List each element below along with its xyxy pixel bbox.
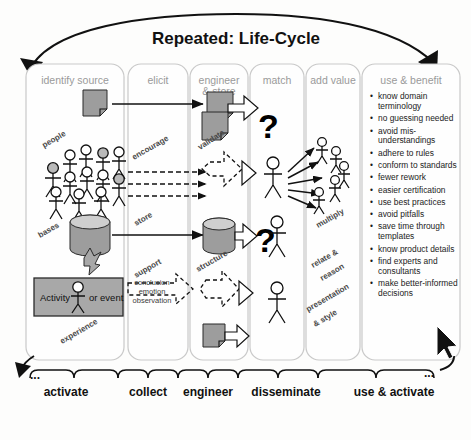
database-cylinder-engineered	[203, 218, 235, 254]
benefit-item: know domain terminology	[370, 92, 458, 112]
engineered-document-bottom	[203, 324, 225, 347]
benefit-item: avoid pitfalls	[370, 210, 458, 220]
bottom-ellipsis-left: ...	[30, 368, 40, 382]
column-header-elicit: elicit	[147, 74, 168, 86]
dashed-text-conclusion: conclusion	[134, 278, 169, 287]
benefits-list: know domain terminologyno guessing neede…	[370, 92, 458, 301]
benefit-item: make better-informed decisions	[370, 279, 458, 299]
bottom-label-activate: activate	[44, 385, 89, 399]
benefit-item: fewer rework	[370, 173, 458, 183]
diagram-canvas: Repeated: Life-Cycle identify source eli…	[0, 0, 471, 440]
label-or-event: or event	[89, 292, 124, 303]
bottom-label-use-activate: use & activate	[354, 385, 435, 399]
benefit-item: use best practices	[370, 198, 458, 208]
source-document-icon	[83, 90, 107, 116]
bottom-ellipsis-right: ...	[424, 366, 434, 380]
benefit-item: no guessing needed	[370, 114, 458, 124]
column-header-use-benefit: use & benefit	[380, 74, 441, 86]
dashed-text-emotion: emotion	[139, 287, 166, 296]
bottom-label-engineer: engineer	[183, 385, 233, 399]
label-activity: Activity	[40, 292, 70, 303]
bottom-brace-group	[30, 370, 434, 378]
benefit-item: adhere to rules	[370, 149, 458, 159]
benefit-item: avoid mis-understandings	[370, 127, 458, 147]
benefit-item: save time through templates	[370, 222, 458, 242]
benefit-item: easier certification	[370, 186, 458, 196]
bottom-label-disseminate: disseminate	[251, 385, 321, 399]
column-header-add-value: add value	[310, 74, 356, 86]
panel-elicit[interactable]	[128, 64, 188, 360]
bottom-label-collect: collect	[129, 385, 167, 399]
dashed-text-observation: observation	[133, 296, 172, 305]
benefit-item: conform to standards	[370, 161, 458, 171]
question-mark-1: ?	[258, 107, 279, 145]
column-header-identify-source: identify source	[41, 74, 109, 86]
page-title: Repeated: Life-Cycle	[152, 29, 320, 48]
benefit-item: find experts and consultants	[370, 257, 458, 277]
benefit-item: know product details	[370, 245, 458, 255]
column-header-match: match	[263, 74, 292, 86]
